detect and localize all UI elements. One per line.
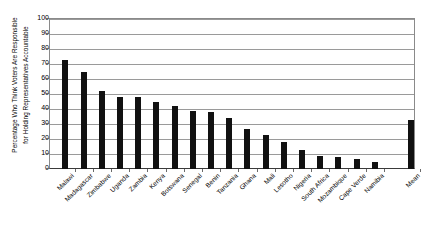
bar bbox=[62, 60, 68, 170]
bar bbox=[153, 102, 159, 170]
bar-chart-figure: Percentage Who Think Voters Are Responsi… bbox=[0, 0, 426, 243]
bar bbox=[372, 162, 378, 170]
x-tick-label: Uganda bbox=[109, 172, 131, 194]
bar bbox=[99, 91, 105, 169]
bar bbox=[354, 159, 360, 170]
y-axis-ticks: 0102030405060708090100 bbox=[25, 18, 49, 169]
x-tick-label: Zambia bbox=[128, 172, 149, 193]
y-axis-title: Percentage Who Think Voters Are Responsi… bbox=[0, 0, 28, 170]
bar bbox=[226, 118, 232, 169]
bar bbox=[299, 150, 305, 170]
bar bbox=[263, 135, 269, 170]
x-axis-labels: MalawiMadagascarZimbabweUgandaZambiaKeny… bbox=[0, 172, 426, 243]
x-tick-label: Mean bbox=[405, 172, 422, 189]
bar bbox=[281, 142, 287, 169]
bar bbox=[317, 156, 323, 170]
x-tick-label: Mali bbox=[262, 172, 276, 186]
x-tick-label: Lesotho bbox=[272, 172, 294, 194]
bar bbox=[208, 112, 214, 169]
bar bbox=[172, 106, 178, 169]
bar bbox=[244, 129, 250, 170]
bars-layer bbox=[50, 19, 414, 169]
bar bbox=[190, 111, 196, 170]
x-tick-label: Ghana bbox=[238, 172, 258, 192]
bar bbox=[408, 120, 414, 170]
bar bbox=[135, 97, 141, 169]
bar bbox=[335, 157, 341, 169]
bar bbox=[117, 97, 123, 169]
bar bbox=[81, 72, 87, 170]
